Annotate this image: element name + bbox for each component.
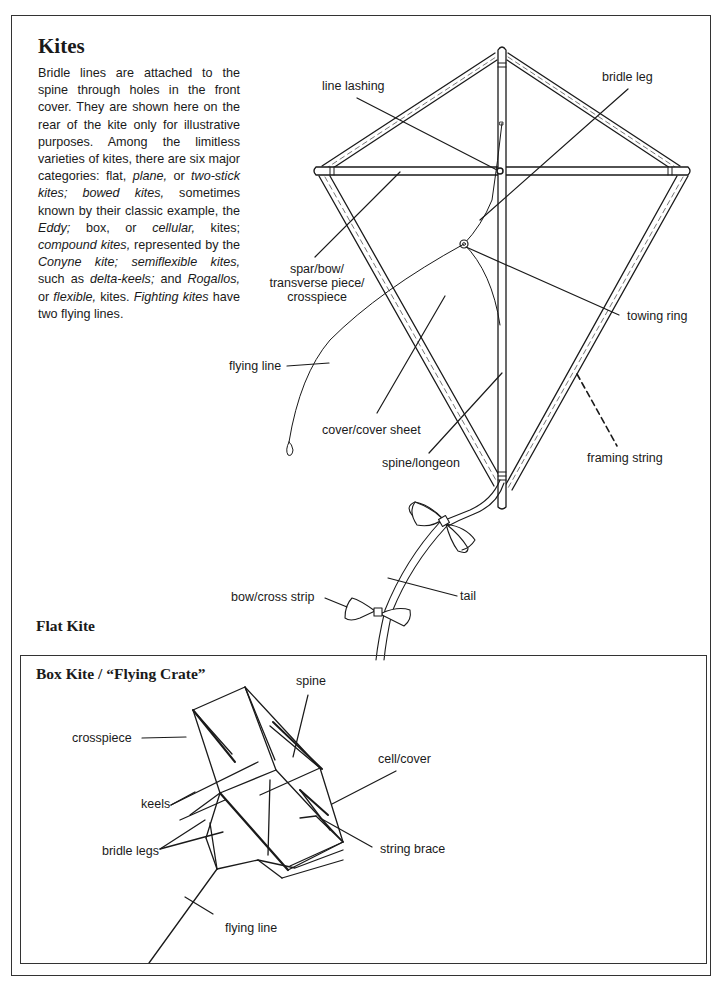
label-box-string-brace: string brace bbox=[380, 842, 445, 857]
box-kite-title: Box Kite / “Flying Crate” bbox=[36, 665, 206, 683]
lower-bow bbox=[345, 598, 410, 626]
flat-kite-title: Flat Kite bbox=[36, 617, 95, 635]
label-box-flying-line: flying line bbox=[225, 921, 277, 936]
upper-left-stick bbox=[322, 53, 497, 172]
spine-stick bbox=[498, 47, 506, 509]
label-box-bridle-legs: bridle legs bbox=[102, 844, 159, 859]
label-box-keels: keels bbox=[141, 797, 170, 812]
label-bow: bow/cross strip bbox=[231, 590, 314, 605]
label-spar-line3: crosspiece bbox=[262, 290, 372, 305]
label-box-crosspiece: crosspiece bbox=[72, 731, 132, 746]
label-spine: spine/longeon bbox=[382, 456, 460, 471]
label-bridle-leg: bridle leg bbox=[602, 70, 653, 85]
upper-bow bbox=[409, 502, 475, 552]
label-line-lashing: line lashing bbox=[322, 79, 385, 94]
lower-right-stick bbox=[505, 176, 688, 490]
label-box-cell-cover: cell/cover bbox=[378, 752, 431, 767]
label-flying-line: flying line bbox=[229, 359, 281, 374]
box-kite-panel bbox=[20, 655, 707, 964]
label-spar-line2: transverse piece/ bbox=[262, 276, 372, 291]
label-cover: cover/cover sheet bbox=[322, 423, 421, 438]
label-tail: tail bbox=[460, 589, 476, 604]
label-spar-line1: spar/bow/ bbox=[262, 262, 372, 277]
label-framing-string: framing string bbox=[587, 451, 663, 466]
label-towing-ring: towing ring bbox=[627, 309, 687, 324]
lower-left-stick bbox=[319, 176, 500, 486]
label-box-spine: spine bbox=[296, 674, 326, 689]
upper-right-stick bbox=[507, 53, 680, 172]
